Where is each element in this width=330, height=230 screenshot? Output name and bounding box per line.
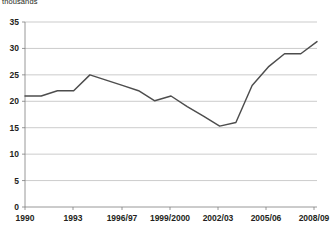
y-axis-tick-label: 15: [10, 123, 20, 133]
y-axis-tick-label: 35: [10, 17, 20, 27]
line-chart: thousands 05101520253035 199019931996/97…: [0, 0, 330, 230]
data-series-line: [25, 42, 317, 127]
y-axis-tick-label: 0: [14, 202, 19, 212]
y-axis-tick-label: 10: [10, 149, 20, 159]
x-axis-tick-label: 1999/2000: [150, 213, 190, 223]
y-axis-ticks-group: 05101520253035: [10, 17, 25, 212]
x-axis-tick-label: 2005/06: [251, 213, 282, 223]
y-axis-tick-label: 25: [10, 70, 20, 80]
x-axis-tick-label: 1993: [64, 213, 83, 223]
y-axis-tick-label: 5: [14, 176, 19, 186]
x-axis-tick-label: 1990: [16, 213, 35, 223]
x-axis-tick-label: 2002/03: [203, 213, 234, 223]
x-axis-ticks-group: 199019931996/971999/20002002/032005/0620…: [16, 207, 330, 223]
y-axis-tick-label: 30: [10, 43, 20, 53]
y-axis-tick-label: 20: [10, 96, 20, 106]
gridlines-group: [25, 22, 317, 181]
x-axis-tick-label: 1996/97: [107, 213, 138, 223]
chart-plot-area: 05101520253035 199019931996/971999/20002…: [0, 0, 330, 230]
x-axis-tick-label: 2008/09: [299, 213, 330, 223]
